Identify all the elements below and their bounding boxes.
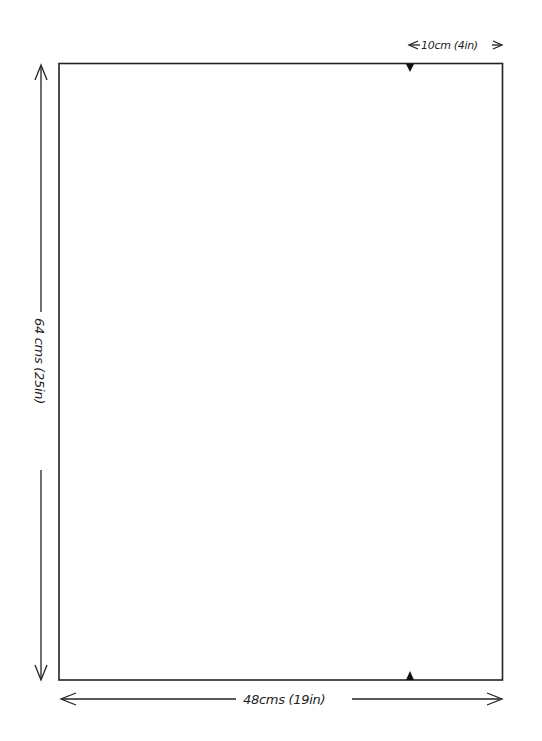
height-label: 64 cms (25in) [32, 318, 47, 404]
width-label: 48cms (19in) [243, 692, 325, 707]
pattern-rectangle [59, 64, 503, 681]
pattern-diagram: 64 cms (25in) 48cms (19in) 10cm (4in) [0, 0, 542, 741]
bottom-notch-marker-icon [406, 671, 414, 680]
offset-label: 10cm (4in) [421, 39, 478, 52]
top-notch-marker-icon [406, 64, 414, 72]
